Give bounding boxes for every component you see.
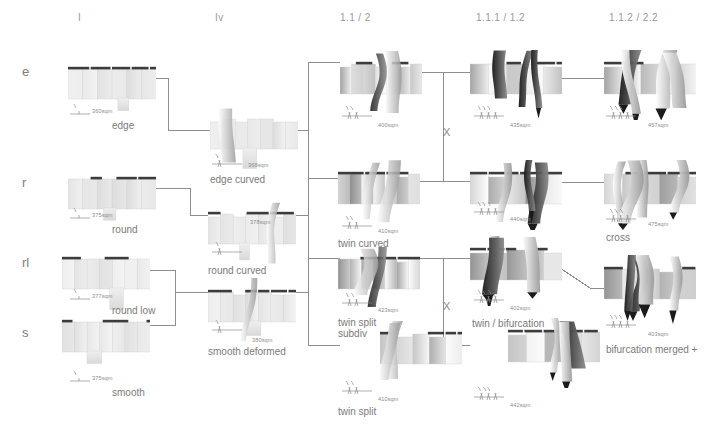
area-label-bifurcation-merged: 403sqm: [648, 331, 669, 337]
section-glyph-smooth-deformed: [212, 318, 252, 338]
section-glyph-twin-curved: [342, 214, 382, 234]
variant-name-bifurcation-merged: bifurcation merged +: [606, 344, 697, 355]
area-label-twin-split-subdiv: 423sqm: [378, 307, 399, 313]
variant-name-round-low: round low: [112, 305, 155, 316]
area-label-smooth-deformed: 380sqm: [252, 337, 273, 343]
area-label-smooth: 375sqm: [92, 375, 113, 381]
area-label-twin: 400sqm: [378, 122, 399, 128]
model-thumbnail-smooth[interactable]: [62, 308, 150, 378]
link-to-bifurcationmerged: [560, 268, 604, 288]
area-label-edge-curved: 368sqm: [248, 162, 269, 168]
area-label-twin-b: 440sqm: [510, 216, 531, 222]
model-thumbnail-twin-split[interactable]: [380, 320, 462, 390]
section-glyph-edge-curved: [212, 152, 252, 172]
operator-cross-1: X: [443, 126, 450, 138]
section-glyph-twin-b: [474, 200, 514, 220]
section-glyph-twin-split: [342, 379, 382, 399]
area-label-bifurcation-fan: 442sqm: [510, 402, 531, 408]
variant-name-edge: edge: [112, 120, 134, 131]
section-glyph-twin: [342, 104, 382, 124]
area-label-round-low: 377sqm: [92, 293, 113, 299]
area-label-edge: 360sqm: [92, 108, 113, 114]
section-glyph-bifurcation-fan: [474, 385, 514, 405]
operator-cross-2: X: [443, 300, 450, 312]
variant-name-smooth-deformed: smooth deformed: [208, 346, 286, 357]
variant-name-twin-curved: twin curved: [338, 238, 389, 249]
area-label-cross-top: 457sqm: [648, 122, 669, 128]
area-label-round: 375sqm: [92, 212, 113, 218]
area-label-cross: 475sqm: [648, 221, 669, 227]
variant-name-twin-split-subdiv: twin split subdiv: [338, 317, 376, 339]
link-round-to-roundcurved: [150, 188, 208, 215]
area-label-twin-curved: 410sqm: [378, 228, 399, 234]
area-label-round-curved: 378sqm: [250, 219, 271, 225]
section-glyph-cross: [606, 207, 646, 227]
section-glyph-twin-bifurcation: [474, 288, 514, 308]
variant-name-twin-split: twin split: [338, 406, 376, 417]
variant-name-round: round: [112, 224, 138, 235]
section-glyph-twin-a: [474, 104, 514, 124]
area-label-twin-bifurcation: 402sqm: [510, 305, 531, 311]
variant-name-round-curved: round curved: [208, 265, 266, 276]
area-label-twin-a: 435sqm: [510, 122, 531, 128]
section-glyph-cross-top: [606, 104, 646, 124]
area-label-twin-split: 410sqm: [378, 396, 399, 402]
section-glyph-bifurcation-merged: [606, 313, 646, 333]
section-glyph-twin-split-subdiv: [342, 291, 382, 311]
link-roundlow-to-smoothdeformed: [150, 270, 208, 292]
variant-name-cross: cross: [606, 232, 630, 243]
variant-name-twin-bifurcation: twin / bifurcation: [472, 318, 544, 329]
variant-name-smooth: smooth: [112, 387, 145, 398]
link-edge-to-edgecurved: [150, 78, 210, 130]
variant-name-edge-curved: edge curved: [210, 174, 265, 185]
morphology-matrix-sheet: IIv1.1 / 21.1.1 / 1.21.1.2 / 2.2 errls: [0, 0, 717, 425]
section-glyph-round-curved: [212, 240, 252, 260]
